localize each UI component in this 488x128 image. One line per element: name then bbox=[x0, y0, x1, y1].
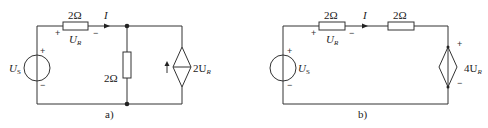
circuit-a-caption: a) bbox=[105, 108, 114, 121]
circuit-a-node-bottom bbox=[125, 102, 130, 107]
circuit-diagrams: 2Ω I + − UR + − US 2Ω 2UR a) 2Ω I 2Ω + − bbox=[0, 0, 488, 128]
circuit-b-source-plus: + bbox=[287, 46, 292, 56]
circuit-b-series-resistor-2-value: 2Ω bbox=[393, 9, 407, 21]
circuit-b-series-resistor-2-icon bbox=[388, 22, 414, 30]
circuit-b-source-label: US bbox=[298, 62, 310, 76]
circuit-a-series-resistor-value: 2Ω bbox=[68, 9, 82, 21]
circuit-b-series-resistor-1-icon bbox=[319, 22, 345, 30]
circuit-a-current-arrow-icon bbox=[104, 24, 110, 29]
circuit-a-ur-minus: − bbox=[93, 28, 98, 38]
circuit-a-source-minus: − bbox=[40, 80, 45, 90]
circuit-a-ur-label: UR bbox=[69, 33, 82, 47]
circuit-a-source-label: US bbox=[9, 62, 21, 76]
circuit-b-dep-minus: − bbox=[457, 78, 462, 88]
circuit-b-dep-plus: + bbox=[457, 39, 462, 49]
circuit-a-shunt-resistor-value: 2Ω bbox=[104, 72, 118, 84]
circuit-b-current-arrow-icon bbox=[362, 24, 368, 29]
circuit-b-dep-node-bottom bbox=[447, 86, 450, 89]
circuit-b-wires bbox=[283, 26, 448, 104]
circuit-a-current-label: I bbox=[103, 9, 109, 21]
circuit-b-caption: b) bbox=[358, 108, 368, 121]
circuit-a-dep-arrow-head-icon bbox=[165, 61, 170, 66]
circuit-a-ur-plus: + bbox=[55, 28, 60, 38]
circuit-b-series-resistor-1-value: 2Ω bbox=[324, 9, 338, 21]
circuit-b-ur-plus: + bbox=[311, 28, 316, 38]
circuit-b-dependent-source-label: 4UR bbox=[464, 62, 482, 76]
circuit-b-source-minus: − bbox=[287, 80, 292, 90]
circuit-a-source-plus: + bbox=[40, 46, 45, 56]
circuit-a-dependent-source-label: 2UR bbox=[193, 62, 211, 76]
circuit-b-ur-minus: − bbox=[349, 28, 354, 38]
circuit-b-current-label: I bbox=[362, 9, 368, 21]
circuit-a-shunt-resistor-icon bbox=[123, 52, 131, 78]
circuit-b-ur-label: UR bbox=[326, 33, 339, 47]
circuit-a-node-top bbox=[125, 24, 130, 29]
circuit-a-series-resistor-icon bbox=[63, 22, 88, 30]
circuit-b-dep-node-top bbox=[447, 46, 450, 49]
